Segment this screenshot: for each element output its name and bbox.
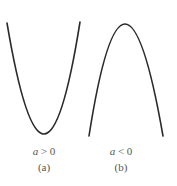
panel-b-caption: (b) [91,161,151,173]
panel-a-condition: a > 0 [14,145,74,157]
panel-b-inequality: < 0 [115,145,132,157]
panel-b-condition: a < 0 [91,145,151,157]
parabola-figure [0,0,177,186]
parabola-a-upward [7,22,80,134]
panel-a-inequality: > 0 [38,145,55,157]
parabola-b-downward [89,24,163,136]
panel-a-caption: (a) [14,161,74,173]
